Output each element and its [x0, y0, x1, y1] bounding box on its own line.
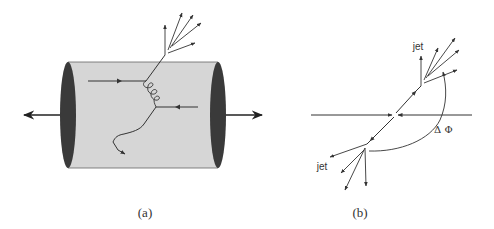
jet-spray-lower [330, 144, 367, 190]
jet-axis-upper-ext [416, 86, 421, 91]
panel-b: jet jet Δ Φ (b) [311, 38, 472, 220]
jet-axis-lower-ext [367, 141, 370, 144]
jet-spray-upper [421, 38, 459, 86]
jet-axis-upper [396, 91, 416, 113]
jet-spray-a [165, 13, 201, 55]
caption-a: (a) [138, 205, 152, 220]
figure-canvas: (a) jet [0, 0, 494, 229]
jet-label-upper: jet [412, 41, 424, 52]
physics-figure: (a) jet [0, 0, 494, 229]
left-end-cap [60, 62, 76, 168]
jet-label-lower: jet [316, 161, 328, 172]
caption-b: (b) [352, 205, 367, 220]
jet-axis-lower [370, 117, 394, 141]
delta-phi-arc [369, 72, 446, 151]
right-end-cap [210, 62, 226, 168]
panel-a: (a) [24, 13, 262, 220]
detector-cylinder [68, 62, 218, 168]
delta-phi-label: Δ Φ [434, 124, 453, 135]
